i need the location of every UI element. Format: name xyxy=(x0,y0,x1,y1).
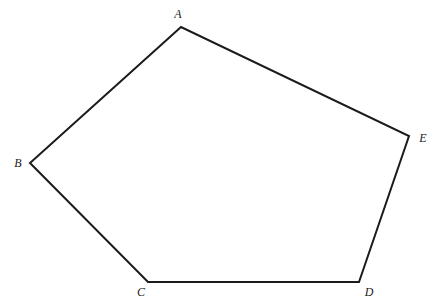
vertex-label-c: C xyxy=(137,286,145,298)
pentagon-shape xyxy=(0,0,436,302)
pentagon-outline xyxy=(30,27,409,282)
vertex-label-d: D xyxy=(365,286,374,298)
vertex-label-b: B xyxy=(14,157,21,169)
vertex-label-a: A xyxy=(174,8,181,20)
vertex-label-e: E xyxy=(419,132,426,144)
geometry-figure: ABCDE xyxy=(0,0,436,302)
